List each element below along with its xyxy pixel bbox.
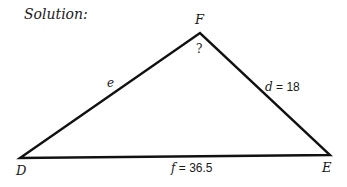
side-d-equals: =: [273, 80, 287, 94]
triangle-def: [20, 33, 330, 158]
side-d-value: 18: [286, 80, 300, 94]
side-label-f: f = 36.5: [170, 161, 213, 175]
vertex-label-f: F: [194, 12, 205, 27]
side-label-d: d = 18: [265, 80, 300, 94]
side-e-var: e: [107, 76, 114, 90]
side-f-value: 36.5: [189, 161, 213, 175]
triangle-diagram: F D E ? e d = 18 f = 36.5: [0, 0, 347, 187]
vertex-label-d: D: [15, 163, 27, 178]
side-f-equals: =: [175, 161, 189, 175]
angle-f-unknown: ?: [196, 42, 202, 56]
vertex-label-e: E: [321, 160, 332, 175]
side-label-e: e: [107, 76, 114, 90]
